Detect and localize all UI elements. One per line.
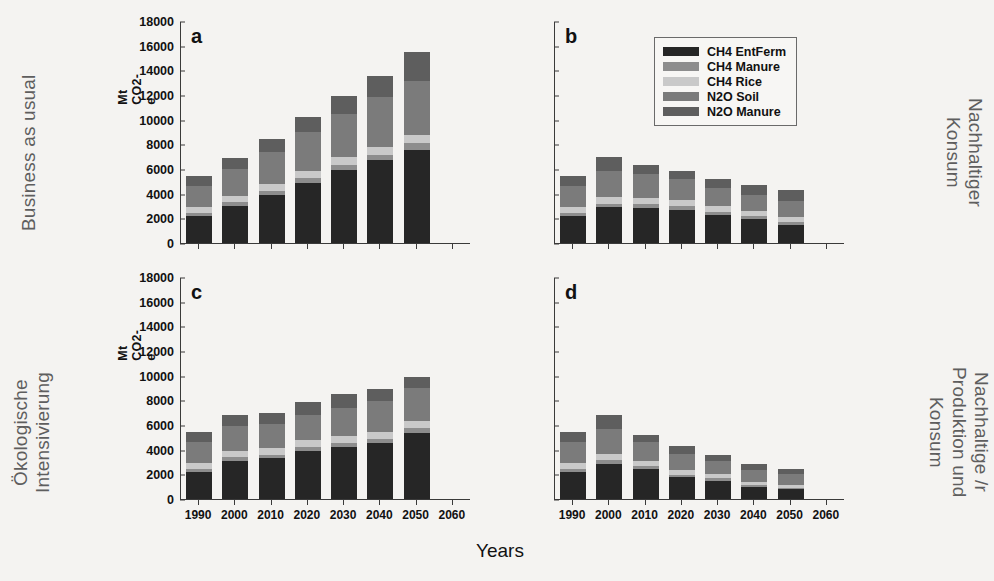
stacked-bar (259, 413, 285, 499)
bar-segment (222, 169, 248, 196)
panel-letter-c: c (191, 281, 202, 304)
bar-segment (186, 472, 212, 499)
y-tick-label: 10000 (139, 370, 174, 384)
x-tick-label: 2030 (330, 508, 357, 522)
bar-segment (778, 190, 804, 201)
legend-label: CH4 Rice (707, 75, 762, 89)
legend-label: CH4 Manure (707, 60, 780, 74)
bar-segment (331, 157, 357, 165)
scenario-label-oekologische-intensivierung: Ökologische Intensivierung (10, 310, 55, 555)
bar-segment (331, 114, 357, 157)
y-tick-label: 8000 (146, 394, 174, 408)
stacked-bar (560, 432, 586, 499)
x-tick-mark (198, 244, 199, 249)
legend-item: CH4 EntFerm (663, 44, 786, 59)
y-tick-label: 16000 (139, 296, 174, 310)
bar-segment (404, 135, 430, 143)
bar-group (555, 278, 844, 499)
stacked-bar (596, 415, 622, 499)
plot-area-c: c (180, 278, 470, 500)
bar-segment (669, 446, 695, 454)
stacked-bar (741, 464, 767, 499)
x-tick-label: 2060 (813, 508, 840, 522)
bar-segment (295, 117, 321, 132)
bar-segment (331, 447, 357, 499)
x-tick-mark (826, 500, 827, 505)
x-tick-label: 2020 (668, 508, 695, 522)
y-tick-label: 16000 (139, 40, 174, 54)
x-tick-label: 2010 (257, 508, 284, 522)
legend-item: CH4 Rice (663, 74, 786, 89)
bar-segment (295, 451, 321, 499)
legend-label: N2O Soil (707, 90, 759, 104)
scenario-label-business-as-usual: Business as usual (18, 40, 40, 265)
x-axis-ticks: 19902000201020202030204020502060 (554, 500, 844, 530)
y-tick-label: 2000 (146, 468, 174, 482)
bar-segment (596, 415, 622, 429)
y-tick-label: 2000 (146, 212, 174, 226)
bar-segment (404, 52, 430, 81)
x-tick-label: 2030 (704, 508, 731, 522)
x-tick-mark (234, 244, 235, 249)
bar-segment (367, 97, 393, 146)
bar-segment (367, 160, 393, 243)
stacked-bar (560, 176, 586, 243)
bar-segment (404, 421, 430, 428)
x-tick-mark (826, 244, 827, 249)
legend-item: N2O Soil (663, 89, 786, 104)
legend-item: N2O Manure (663, 104, 786, 119)
scenario-label-nachhaltiger-konsum: Nachhaltiger Konsum (941, 40, 986, 265)
bar-segment (669, 179, 695, 200)
x-tick-mark (198, 500, 199, 505)
stacked-bar (633, 165, 659, 243)
bar-segment (331, 436, 357, 443)
bar-segment (404, 377, 430, 388)
y-tick-label: 12000 (139, 89, 174, 103)
bar-segment (331, 394, 357, 407)
x-tick-mark (753, 244, 754, 249)
bar-segment (295, 132, 321, 170)
legend-swatch-icon (663, 107, 699, 116)
bar-segment (778, 225, 804, 244)
bar-segment (259, 184, 285, 191)
stacked-bar (705, 179, 731, 243)
x-tick-mark (379, 500, 380, 505)
x-tick-label: 1990 (185, 508, 212, 522)
y-tick-label: 14000 (139, 320, 174, 334)
x-tick-mark (681, 500, 682, 505)
y-tick-label: 0 (167, 493, 174, 507)
x-tick-label: 2000 (221, 508, 248, 522)
x-tick-mark (452, 244, 453, 249)
bar-segment (222, 158, 248, 169)
x-tick-label: 2000 (595, 508, 622, 522)
bar-segment (778, 489, 804, 499)
bar-segment (367, 432, 393, 439)
x-tick-mark (379, 244, 380, 249)
x-tick-mark (271, 500, 272, 505)
x-tick-mark (790, 500, 791, 505)
bar-segment (186, 216, 212, 243)
stacked-bar (778, 469, 804, 499)
stacked-bar (331, 96, 357, 243)
x-tick-label: 2060 (439, 508, 466, 522)
bar-segment (705, 188, 731, 206)
bar-segment (295, 183, 321, 243)
y-tick-label: 10000 (139, 114, 174, 128)
figure-root: Business as usual Ökologische Intensivie… (0, 0, 994, 581)
bar-segment (367, 401, 393, 431)
stacked-bar (186, 432, 212, 499)
x-tick-mark (717, 244, 718, 249)
x-tick-mark (572, 500, 573, 505)
x-tick-mark (343, 244, 344, 249)
bar-segment (259, 413, 285, 424)
y-tick-label: 0 (167, 237, 174, 251)
x-tick-mark (608, 500, 609, 505)
stacked-bar (295, 402, 321, 499)
bar-segment (295, 415, 321, 441)
x-tick-mark (790, 244, 791, 249)
stacked-bar (596, 157, 622, 243)
stacked-bar (705, 455, 731, 499)
bar-segment (560, 186, 586, 207)
bar-segment (705, 461, 731, 474)
bar-segment (633, 469, 659, 499)
